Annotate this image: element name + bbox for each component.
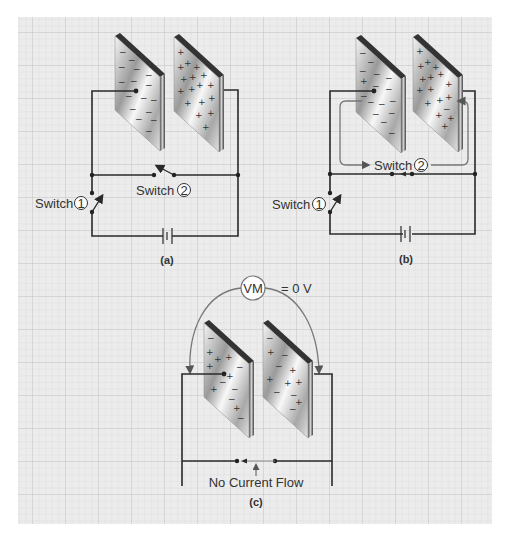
svg-text:−: − bbox=[275, 361, 283, 371]
svg-text:+: + bbox=[427, 72, 435, 82]
svg-text:+: + bbox=[441, 121, 449, 131]
switch-2-label: Switch bbox=[136, 183, 174, 198]
no-current-flow-label: No Current Flow bbox=[209, 475, 304, 490]
svg-text:+: + bbox=[416, 46, 424, 56]
svg-text:+: + bbox=[207, 108, 215, 118]
svg-text:−: − bbox=[378, 99, 386, 109]
switch-2-number: 2 bbox=[417, 158, 424, 173]
svg-text:−: − bbox=[359, 48, 367, 58]
svg-text:+: + bbox=[206, 361, 214, 371]
svg-text:+: + bbox=[427, 84, 435, 94]
svg-text:+: + bbox=[200, 70, 208, 80]
voltmeter-reading: = 0 V bbox=[281, 281, 312, 296]
svg-text:+: + bbox=[177, 86, 185, 96]
svg-text:−: − bbox=[119, 47, 127, 57]
svg-text:−: − bbox=[135, 114, 143, 124]
svg-text:−: − bbox=[129, 104, 137, 114]
svg-text:+: + bbox=[208, 93, 216, 103]
svg-text:+: + bbox=[206, 347, 214, 357]
svg-text:+: + bbox=[266, 374, 274, 384]
svg-text:+: + bbox=[188, 84, 196, 94]
svg-text:+: + bbox=[424, 57, 432, 67]
svg-text:+: + bbox=[284, 378, 292, 388]
svg-text:−: − bbox=[145, 70, 153, 80]
svg-text:+: + bbox=[445, 79, 453, 89]
svg-text:+: + bbox=[360, 76, 368, 86]
svg-text:+: + bbox=[437, 69, 445, 79]
svg-text:+: + bbox=[184, 58, 192, 68]
switch-1-number: 1 bbox=[77, 196, 84, 211]
svg-text:+: + bbox=[435, 110, 443, 120]
caption-c: (c) bbox=[249, 496, 263, 508]
svg-text:+: + bbox=[225, 352, 233, 362]
svg-text:+: + bbox=[196, 80, 204, 90]
voltmeter-label: VM bbox=[243, 281, 263, 296]
svg-text:−: − bbox=[380, 117, 388, 127]
svg-text:+: + bbox=[226, 371, 234, 381]
switch-2-number: 2 bbox=[180, 183, 187, 198]
switch-1-label: Switch bbox=[35, 196, 73, 211]
svg-text:−: − bbox=[359, 66, 367, 76]
svg-text:+: + bbox=[198, 97, 206, 107]
svg-text:−: − bbox=[289, 404, 297, 414]
capacitor-discharge-diagram: −−−− −−−− −−−− −−−− ++++ ++++ ++++ +++++ bbox=[0, 0, 505, 537]
svg-text:−: − bbox=[372, 109, 380, 119]
svg-text:−: − bbox=[125, 91, 133, 101]
svg-text:+: + bbox=[233, 403, 241, 413]
svg-text:−: − bbox=[145, 126, 153, 136]
svg-text:+: + bbox=[424, 98, 432, 108]
svg-text:+: + bbox=[207, 80, 215, 90]
svg-text:−: − bbox=[281, 350, 289, 360]
svg-text:−: − bbox=[373, 69, 381, 79]
svg-text:−: − bbox=[237, 413, 245, 423]
svg-text:+: + bbox=[180, 74, 188, 84]
svg-text:+: + bbox=[210, 384, 218, 394]
svg-text:+: + bbox=[214, 354, 222, 364]
svg-text:+: + bbox=[267, 347, 275, 357]
svg-text:+: + bbox=[289, 365, 297, 375]
svg-text:−: − bbox=[150, 115, 158, 125]
svg-text:+: + bbox=[177, 47, 185, 57]
svg-text:+: + bbox=[202, 122, 210, 132]
svg-text:+: + bbox=[419, 74, 427, 84]
svg-text:−: − bbox=[367, 57, 375, 67]
svg-text:+: + bbox=[184, 98, 192, 108]
svg-text:−: − bbox=[207, 333, 215, 343]
caption-a: (a) bbox=[160, 254, 174, 266]
svg-text:−: − bbox=[367, 97, 375, 107]
svg-text:+: + bbox=[295, 377, 303, 387]
svg-text:−: − bbox=[266, 333, 274, 343]
caption-b: (b) bbox=[399, 253, 413, 265]
switch-1-label: Switch bbox=[272, 197, 310, 212]
svg-text:−: − bbox=[273, 387, 281, 397]
svg-text:−: − bbox=[118, 77, 126, 87]
svg-text:−: − bbox=[150, 95, 158, 105]
switch-1-number: 1 bbox=[315, 197, 322, 212]
svg-text:−: − bbox=[140, 93, 148, 103]
svg-text:−: − bbox=[118, 62, 126, 72]
svg-text:−: − bbox=[145, 80, 153, 90]
svg-text:−: − bbox=[130, 76, 138, 86]
svg-text:−: − bbox=[385, 73, 393, 83]
svg-text:−: − bbox=[219, 377, 227, 387]
svg-text:−: − bbox=[388, 128, 396, 138]
svg-text:+: + bbox=[416, 85, 424, 95]
svg-text:−: − bbox=[236, 362, 244, 372]
svg-text:−: − bbox=[231, 384, 239, 394]
voltmeter: VM bbox=[241, 276, 265, 300]
svg-text:−: − bbox=[385, 84, 393, 94]
switch-2-label: Switch bbox=[374, 158, 412, 173]
svg-text:+: + bbox=[195, 110, 203, 120]
svg-text:−: − bbox=[389, 96, 397, 106]
svg-text:−: − bbox=[133, 64, 141, 74]
svg-text:−: − bbox=[388, 108, 396, 118]
svg-text:+: + bbox=[445, 92, 453, 102]
